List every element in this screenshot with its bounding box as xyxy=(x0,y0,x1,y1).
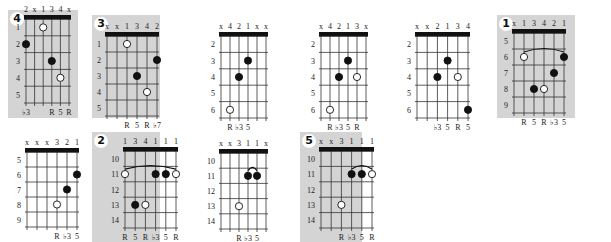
nut-bar xyxy=(319,147,374,152)
root-dot-open-icon xyxy=(338,201,345,208)
fret-number: 13 xyxy=(307,201,315,210)
fret-number: 10 xyxy=(307,155,315,164)
finger-label: 3 xyxy=(339,137,343,146)
interval-label: R xyxy=(339,233,345,242)
finger-dot-filled-icon xyxy=(348,171,355,178)
interval-label: ♭3 xyxy=(348,233,356,242)
root-dot-open-icon xyxy=(368,171,375,178)
interval-label: R xyxy=(369,233,375,242)
fret-number: 14 xyxy=(307,216,315,225)
finger-label: x xyxy=(329,137,333,146)
finger-label: 1 xyxy=(360,137,364,146)
fret-number: 11 xyxy=(307,170,315,179)
finger-label: x xyxy=(319,137,323,146)
fret-number: 12 xyxy=(307,186,315,195)
chord-diagram: xx31111011121314R♭35R xyxy=(0,0,611,242)
finger-label: 1 xyxy=(350,137,354,146)
finger-dot-filled-icon xyxy=(358,171,365,178)
interval-label: 5 xyxy=(360,233,364,242)
finger-label: 1 xyxy=(370,137,374,146)
